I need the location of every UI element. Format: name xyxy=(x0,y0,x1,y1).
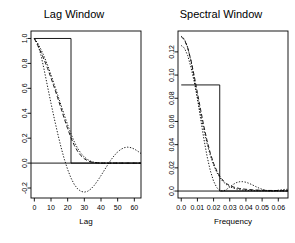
x-tick-label: 0.01 xyxy=(191,204,205,211)
x-tick-label: 0.03 xyxy=(223,204,237,211)
y-tick-label: 0.12 xyxy=(168,45,175,59)
x-axis-title: Frequency xyxy=(214,217,252,226)
series-daniell xyxy=(181,36,288,191)
panel-spectral-window: Spectral Window0.00.010.020.030.040.050.… xyxy=(147,0,295,243)
plot-title: Lag Window xyxy=(44,8,105,20)
plot-title: Spectral Window xyxy=(180,8,263,20)
plot-area-lag-window: Lag Window0102030405060Lag-0.20.00.20.40… xyxy=(0,0,148,243)
plot-frame xyxy=(31,31,141,198)
y-tick-label: 0.10 xyxy=(168,68,175,82)
y-tick-label: 0.8 xyxy=(21,58,28,68)
y-tick-label: 1.0 xyxy=(21,34,28,44)
y-axis: 0.00.020.040.060.080.100.12 xyxy=(168,45,178,196)
x-tick-label: 0.0 xyxy=(176,204,186,211)
x-tick-label: 0.06 xyxy=(271,204,285,211)
y-tick-label: 0.6 xyxy=(21,83,28,93)
x-axis: 0102030405060Lag xyxy=(32,198,138,226)
y-tick-label: 0.02 xyxy=(168,161,175,175)
x-axis: 0.00.010.020.030.040.050.06Frequency xyxy=(176,198,285,226)
x-tick-label: 20 xyxy=(64,204,72,211)
y-tick-label: 0.0 xyxy=(21,158,28,168)
panel-lag-window: Lag Window0102030405060Lag-0.20.00.20.40… xyxy=(0,0,148,243)
x-tick-label: 0.04 xyxy=(239,204,253,211)
y-tick-label: 0.2 xyxy=(21,133,28,143)
y-tick-label: 0.4 xyxy=(21,108,28,118)
y-tick-label: 0.08 xyxy=(168,91,175,105)
series-parzen xyxy=(181,46,288,191)
x-tick-label: 0 xyxy=(32,204,36,211)
y-axis: -0.20.00.20.40.60.81.0 xyxy=(21,34,31,195)
x-axis-title: Lag xyxy=(79,217,92,226)
plot-frame xyxy=(178,31,288,198)
x-tick-label: 0.02 xyxy=(207,204,221,211)
x-tick-label: 40 xyxy=(97,204,105,211)
x-tick-label: 30 xyxy=(80,204,88,211)
figure-canvas: Lag Window0102030405060Lag-0.20.00.20.40… xyxy=(0,0,295,243)
y-tick-label: 0.06 xyxy=(168,115,175,129)
x-tick-label: 60 xyxy=(130,204,138,211)
plot-area-spectral-window: Spectral Window0.00.010.020.030.040.050.… xyxy=(147,0,295,243)
x-tick-label: 10 xyxy=(47,204,55,211)
y-tick-label: 0.04 xyxy=(168,138,175,152)
series-bartlett xyxy=(181,37,288,191)
x-tick-label: 50 xyxy=(114,204,122,211)
series-rectangular xyxy=(181,85,288,191)
x-tick-label: 0.05 xyxy=(255,204,269,211)
y-tick-label: -0.2 xyxy=(21,182,28,194)
y-tick-label: 0.0 xyxy=(168,186,175,196)
series-daniell xyxy=(34,38,141,192)
